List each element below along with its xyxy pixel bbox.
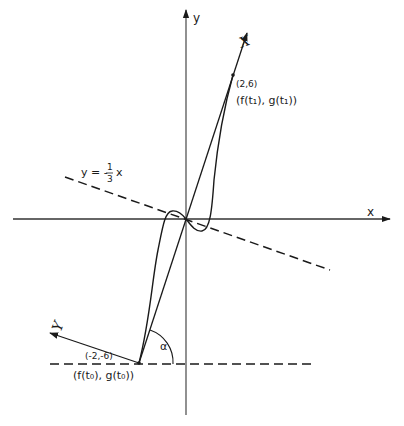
svg-text:y = -: y = - bbox=[81, 166, 108, 179]
rotated-y-label: Y bbox=[48, 318, 67, 334]
point-bottom-marker bbox=[137, 361, 141, 365]
rotated-x-label: X bbox=[236, 32, 253, 51]
line-equation-label: y = - 1 3 x bbox=[81, 162, 123, 184]
angle-label: α bbox=[160, 340, 167, 353]
svg-text:1: 1 bbox=[107, 162, 113, 172]
point-top-marker bbox=[231, 73, 235, 77]
point-bottom-param: (f(t₀), g(t₀)) bbox=[73, 369, 134, 382]
parametric-curve-diagram: y x X Y (2,6) (f(t₁), g(t₁)) (-2,-6) (f(… bbox=[0, 0, 404, 426]
y-axis-label: y bbox=[193, 11, 200, 25]
point-bottom-coords: (-2,-6) bbox=[85, 351, 113, 361]
dashed-line-y-minus-third-x bbox=[65, 177, 330, 270]
svg-text:x: x bbox=[116, 166, 123, 179]
point-top-coords: (2,6) bbox=[236, 79, 257, 89]
svg-text:3: 3 bbox=[107, 174, 113, 184]
x-axis-label: x bbox=[367, 205, 374, 219]
point-top-param: (f(t₁), g(t₁)) bbox=[236, 94, 297, 107]
